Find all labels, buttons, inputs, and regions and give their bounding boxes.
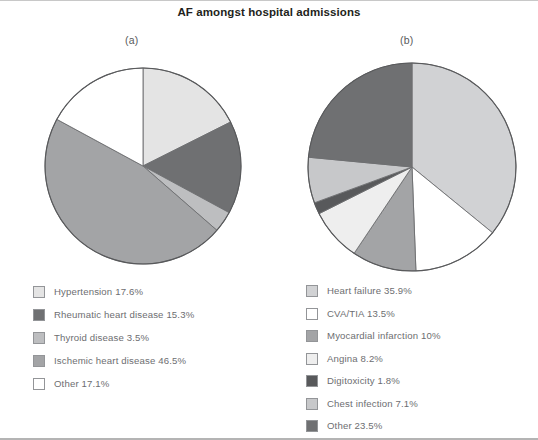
legend-swatch-icon-a-4 [33, 378, 45, 390]
legend-item-a-1[interactable]: Rheumatic heart disease 15.3% [33, 303, 194, 326]
legend-item-b-1[interactable]: CVA/TIA 13.5% [306, 303, 441, 326]
pie-chart-a [44, 65, 244, 267]
legend-label-a-4: Other 17.1% [54, 378, 110, 390]
legend-label-b-5: Chest infection 7.1% [327, 398, 418, 410]
legend-label-a-0: Hypertension 17.6% [54, 286, 143, 298]
legend-label-b-6: Other 23.5% [327, 420, 383, 432]
legend-label-b-0: Heart failure 35.9% [327, 285, 412, 297]
legend-b: Heart failure 35.9%CVA/TIA 13.5%Myocardi… [306, 280, 441, 438]
legend-swatch-icon-a-0 [33, 286, 45, 298]
legend-item-a-2[interactable]: Thyroid disease 3.5% [33, 326, 194, 349]
legend-item-a-4[interactable]: Other 17.1% [33, 372, 194, 395]
pie-chart-a-svg [44, 65, 244, 267]
legend-item-b-5[interactable]: Chest infection 7.1% [306, 393, 441, 416]
legend-label-b-3: Angina 8.2% [327, 353, 383, 365]
legend-a: Hypertension 17.6%Rheumatic heart diseas… [33, 280, 194, 395]
legend-item-b-2[interactable]: Myocardial infarction 10% [306, 325, 441, 348]
legend-swatch-icon-b-6 [306, 420, 318, 432]
legend-label-b-4: Digitoxicity 1.8% [327, 375, 400, 387]
pie-chart-b [306, 61, 518, 273]
legend-label-b-2: Myocardial infarction 10% [327, 330, 441, 342]
page-title: AF amongst hospital admissions [0, 6, 538, 18]
figure-panel: AF amongst hospital admissions (a) (b) H… [0, 0, 538, 440]
legend-item-b-3[interactable]: Angina 8.2% [306, 348, 441, 371]
legend-item-a-0[interactable]: Hypertension 17.6% [33, 280, 194, 303]
legend-swatch-icon-b-2 [306, 330, 318, 342]
legend-label-b-1: CVA/TIA 13.5% [327, 308, 395, 320]
panel-label-b: (b) [400, 34, 413, 46]
legend-swatch-icon-b-5 [306, 398, 318, 410]
legend-item-b-4[interactable]: Digitoxicity 1.8% [306, 370, 441, 393]
legend-swatch-icon-b-4 [306, 375, 318, 387]
pie-slice-b-6 [308, 63, 412, 167]
legend-swatch-icon-b-0 [306, 285, 318, 297]
legend-label-a-1: Rheumatic heart disease 15.3% [54, 309, 194, 321]
legend-swatch-icon-a-3 [33, 355, 45, 367]
legend-item-b-6[interactable]: Other 23.5% [306, 415, 441, 438]
panel-label-a: (a) [125, 34, 138, 46]
legend-swatch-icon-a-1 [33, 309, 45, 321]
legend-item-a-3[interactable]: Ischemic heart disease 46.5% [33, 349, 194, 372]
legend-swatch-icon-b-3 [306, 353, 318, 365]
legend-label-a-3: Ischemic heart disease 46.5% [54, 355, 186, 367]
legend-item-b-0[interactable]: Heart failure 35.9% [306, 280, 441, 303]
legend-label-a-2: Thyroid disease 3.5% [54, 332, 149, 344]
pie-chart-b-svg [306, 61, 518, 273]
legend-swatch-icon-a-2 [33, 332, 45, 344]
legend-swatch-icon-b-1 [306, 308, 318, 320]
